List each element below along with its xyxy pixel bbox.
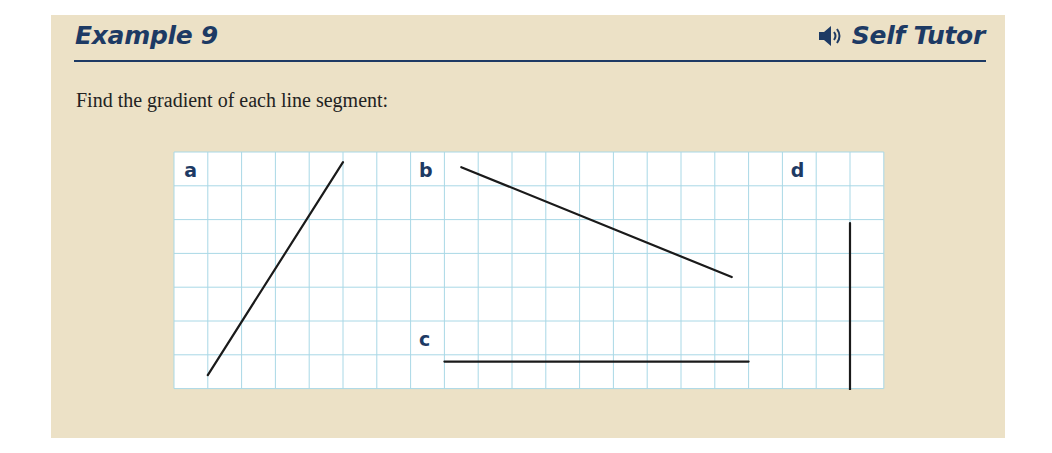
example-title: Example 9	[75, 21, 218, 50]
self-tutor-label: Self Tutor	[852, 21, 985, 50]
grid-figure: abcd	[173, 151, 885, 390]
speaker-icon	[818, 25, 844, 47]
segment-label-a: a	[184, 159, 197, 181]
header-rule	[74, 60, 986, 62]
graph-paper: abcd	[173, 151, 885, 394]
question-prompt: Find the gradient of each line segment:	[76, 89, 388, 112]
self-tutor-button[interactable]: Self Tutor	[818, 21, 985, 50]
example-panel: Example 9 Self Tutor Find the gradient o…	[51, 15, 1005, 438]
segment-label-b: b	[419, 159, 433, 181]
segment-label-d: d	[791, 159, 805, 181]
segment-label-c: c	[419, 328, 430, 350]
grid-background	[174, 152, 884, 389]
